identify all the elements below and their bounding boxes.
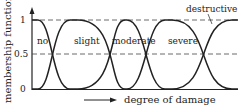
label-destructive: destructive <box>186 4 237 14</box>
y-axis-arrow-icon <box>30 7 35 14</box>
label-slight: slight <box>74 36 100 46</box>
tick-05: 0.5 <box>14 49 29 59</box>
label-no: no <box>37 36 48 46</box>
tick-0: 0 <box>20 84 26 94</box>
destructive-pointer <box>208 14 212 24</box>
y-axis-label: membership function <box>2 0 13 103</box>
label-moderate: moderate <box>112 36 156 46</box>
curve-no-moderate-destructive <box>32 20 238 89</box>
label-severe: severe <box>168 36 198 46</box>
x-arrow-icon <box>110 98 117 103</box>
curve-slight-severe <box>32 20 238 89</box>
x-axis-label: degree of damage <box>124 94 216 105</box>
tick-1: 1 <box>20 15 26 25</box>
membership-chart: 1 0.5 0 membership function no slight mo… <box>0 0 241 107</box>
